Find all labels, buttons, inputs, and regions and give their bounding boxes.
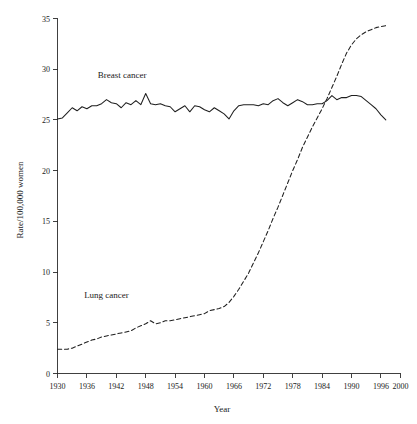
x-tick-labels-group: 1930193619421948195419601966197219781984… — [50, 382, 409, 391]
y-tick-label: 0 — [46, 370, 50, 379]
y-tick-label: 10 — [42, 268, 50, 277]
x-tick-label: 1960 — [197, 382, 213, 391]
x-tick-label: 1954 — [167, 382, 183, 391]
x-tick-label: 1948 — [138, 382, 154, 391]
y-axis-title: Rate/100,000 women — [15, 161, 25, 238]
x-tick-label: 1990 — [344, 382, 360, 391]
chart-figure: 1930193619421948195419601966197219781984… — [0, 0, 417, 424]
line-chart-canvas: 1930193619421948195419601966197219781984… — [0, 0, 417, 424]
x-tick-label: 2000 — [393, 382, 409, 391]
annotation-lung-cancer: Lung cancer — [84, 290, 129, 300]
x-tick-label: 1972 — [255, 382, 271, 391]
annotation-breast-cancer: Breast cancer — [98, 70, 147, 80]
y-tick-label: 25 — [42, 116, 50, 125]
series-line-breast-cancer — [58, 94, 386, 120]
series-annotations-group: Breast cancerLung cancer — [84, 70, 146, 300]
x-tick-label: 1984 — [314, 382, 330, 391]
y-tick-label: 20 — [42, 167, 50, 176]
y-tick-label: 35 — [42, 15, 50, 24]
y-tick-label: 30 — [42, 65, 50, 74]
x-tick-label: 1936 — [79, 382, 95, 391]
x-tick-label: 1942 — [108, 382, 124, 391]
x-axis-title: Year — [214, 404, 231, 414]
y-tick-label: 5 — [46, 319, 50, 328]
x-tick-label: 1996 — [373, 382, 389, 391]
x-tick-label: 1966 — [226, 382, 242, 391]
y-tick-labels-group: 05101520253035 — [42, 15, 50, 379]
x-tick-label: 1930 — [50, 382, 66, 391]
x-tick-label: 1978 — [285, 382, 301, 391]
y-tick-label: 15 — [42, 217, 50, 226]
